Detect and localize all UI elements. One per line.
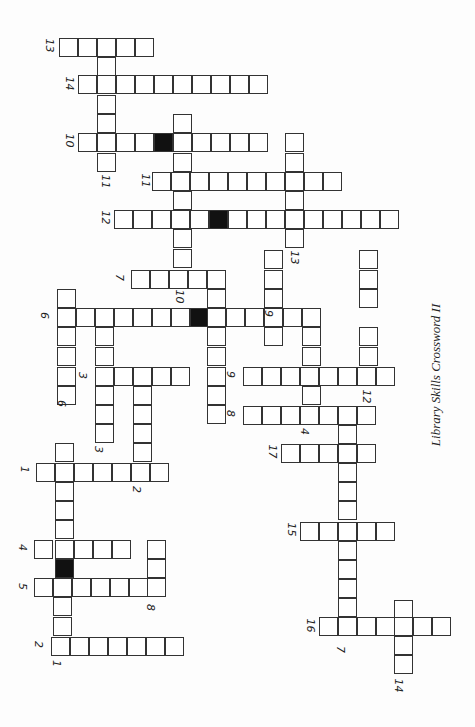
crossword-cell[interactable] (93, 463, 112, 482)
crossword-cell[interactable] (243, 406, 262, 425)
crossword-cell[interactable] (249, 75, 268, 94)
crossword-cell[interactable] (95, 424, 114, 443)
crossword-cell[interactable] (55, 443, 74, 462)
crossword-cell[interactable] (207, 347, 226, 366)
crossword-cell[interactable] (57, 367, 76, 386)
crossword-cell[interactable] (302, 347, 321, 366)
crossword-cell[interactable] (285, 133, 304, 152)
crossword-cell[interactable] (394, 617, 413, 636)
crossword-cell[interactable] (249, 133, 268, 152)
crossword-cell[interactable] (152, 367, 171, 386)
crossword-cell[interactable] (302, 327, 321, 346)
crossword-cell[interactable] (95, 367, 114, 386)
crossword-cell[interactable] (319, 522, 338, 541)
crossword-cell[interactable] (338, 598, 357, 617)
crossword-cell[interactable] (57, 347, 76, 366)
crossword-cell[interactable] (285, 153, 304, 172)
crossword-cell[interactable] (357, 522, 376, 541)
crossword-cell[interactable] (230, 75, 249, 94)
crossword-cell[interactable] (264, 270, 283, 289)
crossword-cell[interactable] (300, 367, 319, 386)
crossword-cell[interactable] (152, 308, 171, 327)
crossword-cell[interactable] (281, 406, 300, 425)
crossword-cell[interactable] (114, 210, 133, 229)
crossword-cell[interactable] (133, 424, 152, 443)
crossword-cell[interactable] (150, 270, 169, 289)
crossword-cell[interactable] (74, 463, 93, 482)
crossword-cell[interactable] (59, 38, 78, 57)
crossword-cell[interactable] (264, 250, 283, 269)
crossword-cell[interactable] (57, 308, 76, 327)
crossword-cell[interactable] (129, 578, 148, 597)
crossword-cell[interactable] (95, 347, 114, 366)
crossword-cell[interactable] (133, 386, 152, 405)
crossword-cell[interactable] (319, 444, 338, 463)
crossword-cell[interactable] (95, 386, 114, 405)
crossword-cell[interactable] (171, 367, 190, 386)
crossword-cell[interactable] (413, 617, 432, 636)
crossword-cell[interactable] (207, 308, 226, 327)
crossword-cell[interactable] (357, 367, 376, 386)
crossword-cell[interactable] (89, 637, 108, 656)
crossword-cell[interactable] (266, 172, 285, 191)
crossword-cell[interactable] (116, 38, 135, 57)
crossword-cell[interactable] (112, 540, 131, 559)
crossword-cell[interactable] (247, 172, 266, 191)
crossword-cell[interactable] (228, 210, 247, 229)
crossword-cell[interactable] (192, 133, 211, 152)
crossword-cell[interactable] (188, 270, 207, 289)
crossword-cell[interactable] (133, 367, 152, 386)
crossword-cell[interactable] (135, 75, 154, 94)
crossword-cell[interactable] (135, 133, 154, 152)
crossword-cell[interactable] (34, 540, 53, 559)
crossword-cell[interactable] (376, 367, 395, 386)
crossword-cell[interactable] (394, 655, 413, 674)
crossword-cell[interactable] (78, 38, 97, 57)
crossword-cell[interactable] (127, 637, 146, 656)
crossword-cell[interactable] (78, 133, 97, 152)
crossword-cell[interactable] (359, 289, 378, 308)
crossword-cell[interactable] (207, 386, 226, 405)
crossword-cell[interactable] (55, 482, 74, 501)
crossword-cell[interactable] (338, 579, 357, 598)
crossword-cell[interactable] (91, 578, 110, 597)
crossword-cell[interactable] (173, 249, 192, 268)
crossword-cell[interactable] (338, 482, 357, 501)
crossword-cell[interactable] (95, 405, 114, 424)
crossword-cell[interactable] (300, 444, 319, 463)
crossword-cell[interactable] (70, 637, 89, 656)
crossword-cell[interactable] (133, 308, 152, 327)
crossword-cell[interactable] (173, 133, 192, 152)
crossword-cell[interactable] (281, 367, 300, 386)
crossword-cell[interactable] (394, 636, 413, 655)
crossword-cell[interactable] (304, 172, 323, 191)
crossword-cell[interactable] (173, 153, 192, 172)
crossword-cell[interactable] (380, 210, 399, 229)
crossword-cell[interactable] (247, 210, 266, 229)
crossword-cell[interactable] (55, 540, 74, 559)
crossword-cell[interactable] (264, 289, 283, 308)
crossword-cell[interactable] (262, 367, 281, 386)
crossword-cell[interactable] (376, 617, 395, 636)
crossword-cell[interactable] (97, 133, 116, 152)
crossword-cell[interactable] (93, 540, 112, 559)
crossword-cell[interactable] (338, 406, 357, 425)
crossword-cell[interactable] (97, 114, 116, 133)
crossword-cell[interactable] (281, 444, 300, 463)
crossword-cell[interactable] (171, 308, 190, 327)
crossword-cell[interactable] (300, 406, 319, 425)
crossword-cell[interactable] (338, 541, 357, 560)
crossword-cell[interactable] (72, 578, 91, 597)
crossword-cell[interactable] (97, 95, 116, 114)
crossword-cell[interactable] (207, 270, 226, 289)
crossword-cell[interactable] (285, 229, 304, 248)
crossword-cell[interactable] (146, 637, 165, 656)
crossword-cell[interactable] (283, 308, 302, 327)
crossword-cell[interactable] (131, 270, 150, 289)
crossword-cell[interactable] (114, 308, 133, 327)
crossword-cell[interactable] (266, 210, 285, 229)
crossword-cell[interactable] (116, 75, 135, 94)
crossword-cell[interactable] (338, 367, 357, 386)
crossword-cell[interactable] (207, 289, 226, 308)
crossword-cell[interactable] (147, 559, 166, 578)
